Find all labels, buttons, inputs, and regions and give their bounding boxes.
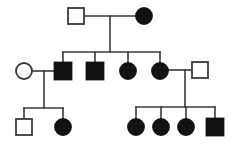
pedigree-canvas	[0, 0, 249, 144]
generation-3-group	[16, 119, 224, 136]
individual-II-3-male-affected[interactable]	[87, 63, 104, 80]
pedigree-chart	[0, 0, 249, 144]
generation-2-group	[16, 62, 208, 108]
individual-II-6-male-unaffected[interactable]	[192, 62, 208, 78]
individual-I-1-male-unaffected[interactable]	[68, 8, 84, 24]
sibship-group-M3	[136, 107, 215, 119]
generation-1-group	[68, 8, 152, 52]
individual-III-5-female-affected[interactable]	[178, 119, 194, 135]
individual-III-3-female-affected[interactable]	[128, 119, 144, 135]
individual-III-4-female-affected[interactable]	[153, 119, 169, 135]
individual-III-2-female-affected[interactable]	[55, 119, 71, 135]
individual-III-6-male-affected[interactable]	[207, 119, 224, 136]
sibship-group-M2	[24, 108, 63, 119]
individual-I-2-female-affected[interactable]	[136, 8, 152, 24]
individual-II-1-female-unaffected[interactable]	[16, 63, 32, 79]
sibship-group-M1	[63, 52, 160, 63]
individual-III-1-male-unaffected[interactable]	[16, 119, 32, 135]
individual-II-2-male-affected[interactable]	[55, 63, 72, 80]
individual-II-4-female-affected[interactable]	[120, 63, 136, 79]
individual-II-5-female-affected[interactable]	[152, 63, 168, 79]
